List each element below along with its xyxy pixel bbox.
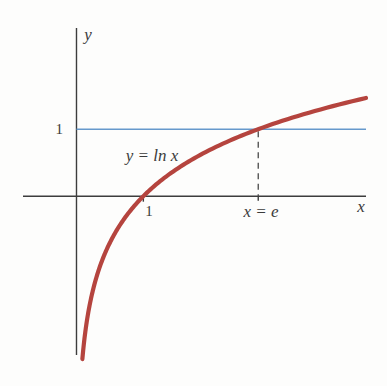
x-equals-e-label: x = e [242,202,279,221]
curve-equation-label: y = ln x [124,146,179,165]
x-tick-1-label: 1 [145,203,153,219]
figure-ln-graph: y x 1 1 y = ln x x = e [0,0,387,386]
x-axis-label: x [356,197,365,216]
ln-curve [82,98,366,359]
y-tick-1-label: 1 [56,121,64,137]
y-axis-label: y [82,25,92,44]
ln-graph-svg: y x 1 1 y = ln x x = e [0,0,387,386]
